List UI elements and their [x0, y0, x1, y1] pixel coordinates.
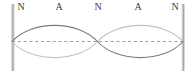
right-wall — [182, 4, 185, 71]
left-wall — [11, 4, 15, 71]
label-node-middle: N — [91, 1, 105, 12]
label-antinode-right: A — [131, 1, 145, 12]
label-node-left: N — [14, 1, 28, 12]
standing-wave-figure: N A N A N — [0, 0, 193, 75]
label-node-right: N — [168, 1, 182, 12]
label-antinode-left: A — [52, 1, 66, 12]
